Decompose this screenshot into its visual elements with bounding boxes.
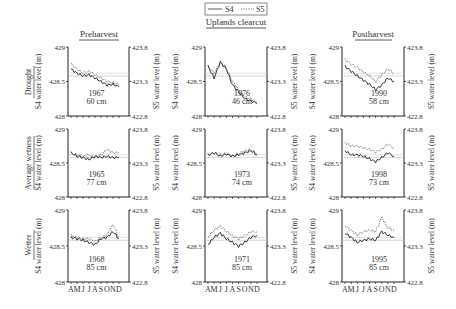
series-s4 [71,69,119,87]
left-axis-title: S4 water level (m) [34,53,43,109]
right-tick-label: 423.3 [132,243,148,251]
month-label: M [348,285,355,294]
right-tick-label: 423.8 [132,44,148,52]
column-titles: Preharvest Uplands clearcut Postharvest [79,17,394,40]
panels: 429423.8428.5423.3428422.8196760 cmS4 wa… [34,44,436,295]
right-tick-label: 422.8 [270,113,286,121]
right-tick-label: 423.8 [270,44,286,52]
month-label: D [391,285,397,294]
panel-1973: 429423.8428.5423.3428422.8197374 cmS4 wa… [171,126,299,202]
left-axis-title: S4 water level (m) [171,53,180,109]
right-tick-label: 423.3 [407,160,423,168]
left-tick-label: 429 [55,126,66,134]
left-tick-label: 428.5 [49,78,65,86]
right-tick-label: 422.8 [132,113,148,121]
month-label: A [92,285,98,294]
row-label-average-wetness: Average wetness [24,136,33,190]
series-s4 [345,151,394,163]
right-tick-label: 423.8 [132,207,148,215]
right-tick-label: 422.8 [407,113,423,121]
series-s4 [71,232,119,246]
hydrograph-figure: S4 S5 Preharvest Uplands clearcut Postha… [0,0,456,309]
month-label: J [81,285,84,294]
precip-label: 85 cm [87,263,108,272]
panel-1990: 429423.8428.5423.3428422.8199058 cmS4 wa… [308,44,436,121]
left-tick-label: 429 [55,207,66,215]
right-axis-title: S5 water level (m) [290,53,299,109]
panel-1971: 429423.8428.5423.3428422.8197185 cmS4 wa… [171,207,299,295]
right-axis-title: S5 water level (m) [427,135,436,191]
month-label: J [362,285,365,294]
column-title-postharvest: Postharvest [352,29,394,39]
month-label: O [379,285,385,294]
left-axis-title: S4 water level (m) [171,135,180,191]
column-title-uplands-clearcut: Uplands clearcut [206,17,267,27]
right-tick-label: 423.3 [132,78,148,86]
panel-1968: 429423.8428.5423.3428422.8196885 cmS4 wa… [34,207,161,295]
series-s4 [71,152,119,160]
right-axis-title: S5 water level (m) [427,218,436,274]
left-tick-label: 428 [329,279,340,287]
right-axis-title: S5 water level (m) [152,135,161,191]
left-tick-label: 428.5 [49,160,65,168]
panel-1998: 429423.8428.5423.3428422.8199873 cmS4 wa… [308,126,436,202]
series-s5 [345,217,394,236]
month-label: J [87,285,90,294]
precip-label: 58 cm [369,97,390,106]
right-tick-label: 422.8 [407,194,423,202]
panel-1965: 429423.8428.5423.3428422.8196577 cmS4 wa… [34,126,161,202]
right-tick-label: 423.8 [407,44,423,52]
right-axis-title: S5 water level (m) [290,218,299,274]
month-label: D [116,285,122,294]
left-tick-label: 428 [192,194,203,202]
precip-label: 74 cm [232,178,253,187]
month-label: S [236,285,240,294]
precip-label: 60 cm [87,97,108,106]
left-tick-label: 428 [55,279,66,287]
left-tick-label: 429 [329,44,340,52]
left-axis-title: S4 water level (m) [171,218,180,274]
month-label: A [230,285,236,294]
left-tick-label: 428 [192,279,203,287]
left-tick-label: 428.5 [186,160,202,168]
panel-1967: 429423.8428.5423.3428422.8196760 cmS4 wa… [34,44,161,121]
panel-1995: 429423.8428.5423.3428422.8199585 cmS4 wa… [308,207,436,295]
precip-label: 85 cm [369,263,390,272]
left-tick-label: 429 [329,207,340,215]
right-tick-label: 423.8 [270,126,286,134]
month-label: N [385,285,391,294]
month-label: D [254,285,260,294]
left-tick-label: 429 [192,126,203,134]
month-label: M [211,285,218,294]
month-label: M [73,285,80,294]
left-tick-label: 429 [55,44,66,52]
right-tick-label: 423.8 [270,207,286,215]
left-tick-label: 429 [192,207,203,215]
left-axis-title: S4 water level (m) [308,53,317,109]
left-tick-label: 429 [329,126,340,134]
left-tick-label: 428 [192,113,203,121]
legend: S4 S5 [205,3,267,15]
right-axis-title: S5 water level (m) [152,53,161,109]
column-title-preharvest: Preharvest [80,29,118,39]
left-tick-label: 428.5 [323,243,339,251]
left-tick-label: 428 [55,194,66,202]
left-axis-title: S4 water level (m) [34,218,43,274]
left-axis-title: S4 water level (m) [34,135,43,191]
right-tick-label: 423.3 [270,243,286,251]
legend-s4: S4 [225,5,233,14]
right-tick-label: 423.3 [132,160,148,168]
right-tick-label: 423.8 [407,207,423,215]
right-axis-title: S5 water level (m) [427,53,436,109]
month-label: O [242,285,248,294]
left-tick-label: 428.5 [323,160,339,168]
right-tick-label: 422.8 [270,279,286,287]
series-s5 [345,142,394,153]
row-label-drought: Drought [24,68,33,95]
right-tick-label: 422.8 [132,194,148,202]
month-label: S [373,285,377,294]
left-tick-label: 428 [55,113,66,121]
right-tick-label: 422.8 [407,279,423,287]
month-label: J [219,285,222,294]
month-label: S [99,285,103,294]
